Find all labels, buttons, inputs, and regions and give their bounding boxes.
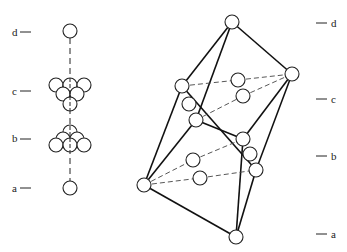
atom-corner-c bbox=[285, 67, 299, 81]
right-unit-cell: d c b a bbox=[137, 15, 337, 244]
atom-inner-c bbox=[236, 89, 250, 103]
left-label-b: b bbox=[12, 132, 31, 144]
atom-corner-d bbox=[225, 15, 239, 29]
atom-d bbox=[63, 24, 77, 38]
atom-inner bbox=[182, 97, 196, 111]
atom-corner-b bbox=[137, 178, 151, 192]
layer-label: a bbox=[331, 228, 336, 240]
atom-corner-a bbox=[229, 230, 243, 244]
left-label-c: c bbox=[12, 85, 31, 97]
atom-corner bbox=[236, 132, 250, 146]
right-label-a: a bbox=[316, 228, 336, 240]
atom-a bbox=[63, 181, 77, 195]
atom-inner-b bbox=[193, 171, 207, 185]
atom-corner-c bbox=[175, 79, 189, 93]
right-label-c: c bbox=[316, 93, 336, 105]
layer-label: b bbox=[12, 132, 18, 144]
layer-label: d bbox=[12, 26, 18, 38]
left-stacking-view: d c b a bbox=[12, 24, 91, 195]
layer-label: a bbox=[12, 182, 17, 194]
atom-corner bbox=[189, 113, 203, 127]
atom-inner-b bbox=[186, 153, 200, 167]
layer-label: c bbox=[12, 85, 17, 97]
cell-edges bbox=[144, 22, 292, 237]
right-label-b: b bbox=[316, 150, 337, 162]
atom-inner bbox=[243, 147, 257, 161]
layer-label: b bbox=[331, 150, 337, 162]
layer-label: c bbox=[331, 93, 336, 105]
left-label-a: a bbox=[12, 182, 31, 194]
atom-corner-b bbox=[249, 163, 263, 177]
left-label-d: d bbox=[12, 26, 31, 38]
atom-inner-c bbox=[231, 73, 245, 87]
right-label-d: d bbox=[316, 17, 337, 29]
crystal-structure-figure: d c b a bbox=[0, 0, 347, 252]
atom-b bbox=[77, 138, 91, 152]
layer-label: d bbox=[331, 17, 337, 29]
atom-b bbox=[49, 138, 63, 152]
